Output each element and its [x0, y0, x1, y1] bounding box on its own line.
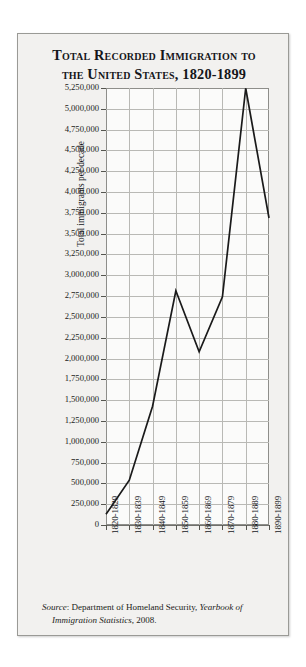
x-tick-label: 1880-1889 — [250, 496, 260, 534]
y-tick-label: 3,000,000 — [15, 270, 99, 279]
y-tick-label: 5,000,000 — [15, 104, 99, 113]
y-tick-label: 4,500,000 — [15, 145, 99, 154]
y-tick-mark — [101, 317, 106, 318]
y-tick-mark — [101, 421, 106, 422]
y-tick-label: 500,000 — [15, 478, 99, 487]
y-tick-mark — [101, 109, 106, 110]
y-tick-mark — [101, 400, 106, 401]
figure-card: Total Recorded Immigration to the United… — [17, 33, 289, 636]
y-tick-label: 1,500,000 — [15, 395, 99, 404]
y-tick-mark — [101, 483, 106, 484]
y-tick-mark — [101, 150, 106, 151]
x-tick-label: 1870-1879 — [226, 496, 236, 534]
x-tick-label: 1860-1869 — [203, 496, 213, 534]
y-tick-label: 4,250,000 — [15, 166, 99, 175]
y-tick-label: 1,250,000 — [15, 416, 99, 425]
data-line-series — [106, 88, 269, 525]
source-note: Source: Department of Homeland Security,… — [42, 601, 280, 627]
x-tick-mark — [176, 525, 177, 530]
x-tick-mark — [269, 525, 270, 530]
y-tick-label: 1,000,000 — [15, 437, 99, 446]
x-tick-mark — [246, 525, 247, 530]
y-tick-mark — [101, 171, 106, 172]
y-tick-label: 750,000 — [15, 458, 99, 467]
source-label: Source — [42, 602, 67, 612]
y-tick-mark — [101, 442, 106, 443]
x-tick-label: 1830-1839 — [133, 496, 143, 534]
y-tick-mark — [101, 234, 106, 235]
y-tick-mark — [101, 504, 106, 505]
y-tick-label: 2,000,000 — [15, 354, 99, 363]
y-tick-mark — [101, 130, 106, 131]
x-tick-mark — [129, 525, 130, 530]
x-tick-label: 1840-1849 — [157, 496, 167, 534]
chart-plot-wrapper: Total immigrants per decade 5,250,0005,0… — [18, 34, 290, 637]
y-tick-mark — [101, 338, 106, 339]
y-tick-mark — [101, 192, 106, 193]
y-tick-label: 250,000 — [15, 499, 99, 508]
y-tick-label: 2,500,000 — [15, 312, 99, 321]
y-tick-label: 2,250,000 — [15, 333, 99, 342]
y-tick-label: 3,250,000 — [15, 249, 99, 258]
y-tick-label: 3,750,000 — [15, 208, 99, 217]
x-tick-mark — [222, 525, 223, 530]
y-tick-label: 2,750,000 — [15, 291, 99, 300]
y-tick-label: 0 — [15, 520, 99, 529]
plot-area — [106, 88, 269, 525]
source-agency: Department of Homeland Security, — [71, 602, 199, 612]
y-tick-mark — [101, 275, 106, 276]
x-tick-label: 1850-1859 — [180, 496, 190, 534]
source-year: , 2008. — [132, 615, 157, 625]
x-tick-mark — [106, 525, 107, 530]
immigration-line — [106, 88, 269, 514]
y-tick-mark — [101, 359, 106, 360]
y-tick-mark — [101, 463, 106, 464]
x-tick-label: 1890-1899 — [273, 496, 283, 534]
y-tick-mark — [101, 88, 106, 89]
y-tick-mark — [101, 213, 106, 214]
x-tick-mark — [153, 525, 154, 530]
y-tick-mark — [101, 379, 106, 380]
y-tick-label: 1,750,000 — [15, 374, 99, 383]
y-tick-label: 4,000,000 — [15, 187, 99, 196]
y-tick-mark — [101, 296, 106, 297]
y-tick-label: 5,250,000 — [15, 83, 99, 92]
y-tick-mark — [101, 254, 106, 255]
y-tick-label: 3,500,000 — [15, 229, 99, 238]
x-tick-label: 1820-1829 — [110, 496, 120, 534]
x-tick-mark — [199, 525, 200, 530]
y-tick-label: 4,750,000 — [15, 125, 99, 134]
